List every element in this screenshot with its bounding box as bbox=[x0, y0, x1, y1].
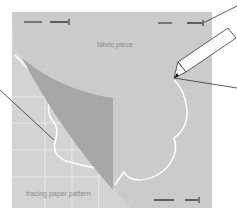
fabric-piece-label: fabric piece bbox=[97, 41, 133, 48]
tracing-paper-label: tracing paper pattern bbox=[26, 190, 91, 197]
illustration bbox=[0, 0, 237, 216]
diagram-canvas: fabric piece tracing paper pattern bbox=[0, 0, 237, 216]
